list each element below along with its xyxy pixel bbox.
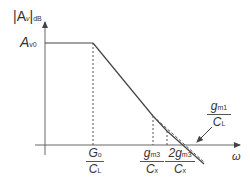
breakpoint-label-2: gm3 Cx (140, 147, 164, 175)
breakpoint-label-3: 2gm3 Cx (165, 147, 195, 175)
annotation-label: gm1 CL (207, 100, 231, 128)
breakpoint-label-1: Go CL (86, 147, 104, 175)
slope-2 (153, 116, 167, 131)
annotation-arrow (197, 127, 212, 142)
bode-plot (0, 0, 250, 183)
dc-gain-label: Av0 (20, 34, 37, 50)
y-axis-label: |Av|dB (13, 8, 42, 24)
x-axis-label: ω (232, 150, 241, 162)
slope-1 (93, 43, 153, 116)
